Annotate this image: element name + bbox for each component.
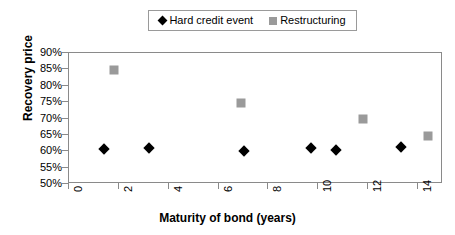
x-axis-tick-label: 8 — [272, 186, 283, 192]
x-axis-tick-label: 14 — [422, 180, 433, 192]
y-axis-labels: 50%55%60%65%70%75%80%85%90% — [20, 46, 62, 189]
x-axis-tick-mark — [218, 183, 219, 189]
x-axis-title: Maturity of bond (years) — [0, 212, 455, 224]
data-point — [237, 99, 246, 108]
y-axis-tick-mark — [62, 85, 68, 86]
x-axis-tick-mark — [267, 183, 268, 189]
plot-area — [68, 52, 442, 183]
data-point — [109, 66, 118, 75]
data-point — [397, 143, 405, 151]
y-axis-tick-label: 70% — [40, 112, 62, 123]
y-axis-tick-mark — [62, 183, 68, 184]
x-axis-tick-mark — [68, 183, 69, 189]
legend-item-restructuring: Restructuring — [269, 15, 345, 26]
y-axis-tick-label: 75% — [40, 96, 62, 107]
y-axis-tick-label: 85% — [40, 63, 62, 74]
y-axis-tick-label: 55% — [40, 161, 62, 172]
y-axis-tick-label: 60% — [40, 145, 62, 156]
y-axis-tick-label: 65% — [40, 128, 62, 139]
legend-label-hard-credit-event: Hard credit event — [169, 15, 253, 26]
data-point — [424, 132, 433, 141]
y-axis-tick-mark — [62, 167, 68, 168]
x-axis-tick-label: 6 — [223, 186, 234, 192]
x-axis-tick-mark — [367, 183, 368, 189]
data-point — [240, 147, 248, 155]
y-axis-tick-label: 90% — [40, 47, 62, 58]
x-axis-tick-label: 2 — [123, 186, 134, 192]
x-axis-tick-mark — [417, 183, 418, 189]
y-axis-tick-mark — [62, 68, 68, 69]
scatter-chart: Hard credit event Restructuring Recovery… — [0, 0, 455, 235]
legend-label-restructuring: Restructuring — [280, 15, 345, 26]
legend-item-hard-credit-event: Hard credit event — [159, 15, 253, 26]
diamond-marker-icon — [158, 16, 168, 26]
y-axis-tick-mark — [62, 134, 68, 135]
x-axis-tick-mark — [317, 183, 318, 189]
y-axis-tick-mark — [62, 52, 68, 53]
y-axis-tick-mark — [62, 150, 68, 151]
data-point — [145, 144, 153, 152]
x-axis-tick-mark — [168, 183, 169, 189]
data-point — [359, 115, 368, 124]
data-point — [307, 144, 315, 152]
x-axis-tick-label: 10 — [322, 180, 333, 192]
data-point — [100, 145, 108, 153]
y-axis-tick-mark — [62, 118, 68, 119]
y-axis-tick-label: 50% — [40, 178, 62, 189]
chart-legend: Hard credit event Restructuring — [148, 10, 357, 31]
x-axis-tick-mark — [118, 183, 119, 189]
x-axis-tick-label: 12 — [372, 180, 383, 192]
x-axis-tick-label: 0 — [73, 186, 84, 192]
x-axis-tick-label: 4 — [173, 186, 184, 192]
square-marker-icon — [269, 17, 277, 25]
y-axis-tick-mark — [62, 101, 68, 102]
data-point — [332, 146, 340, 154]
y-axis-tick-label: 80% — [40, 79, 62, 90]
